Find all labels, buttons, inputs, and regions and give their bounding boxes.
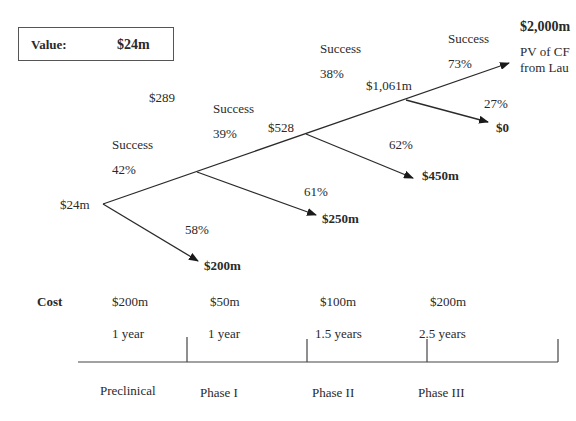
phase-duration-preclinical: 1 year: [112, 327, 144, 340]
final-payoff: $2,000m: [520, 20, 570, 34]
final-note-line1: PV of CF: [520, 45, 570, 58]
phase-name-phase2: Phase II: [312, 386, 354, 399]
stage4-success-pct: 73%: [448, 57, 472, 70]
node2-value: $528: [268, 121, 294, 134]
stage1-success-label: Success: [112, 138, 153, 151]
stage2-fail-payoff: $250m: [322, 212, 359, 225]
stage3-success-label: Success: [320, 42, 361, 55]
final-note-line2: from Lau: [520, 61, 569, 74]
phase-duration-phase1: 1 year: [208, 327, 240, 340]
node1-value: $289: [149, 91, 175, 104]
phase-duration-phase2: 1.5 years: [315, 327, 362, 340]
stage2-success-pct: 39%: [213, 127, 237, 140]
phase-name-phase3: Phase III: [418, 386, 465, 399]
fail-branch-1: [103, 204, 198, 261]
phase-duration-phase3: 2.5 years: [419, 327, 466, 340]
fail-branch-4: [406, 100, 488, 122]
stage3-fail-payoff: $450m: [422, 169, 459, 182]
node3-value: $1,061m: [366, 79, 412, 92]
cost-label: Cost: [37, 295, 62, 308]
stage3-success-pct: 38%: [320, 67, 344, 80]
phase-cost-phase2: $100m: [320, 295, 356, 308]
stage4-fail-payoff: $0: [496, 121, 509, 134]
stage4-fail-pct: 27%: [484, 97, 508, 110]
root-value: $24m: [60, 198, 90, 211]
stage2-fail-pct: 61%: [304, 185, 328, 198]
stage1-fail-pct: 58%: [185, 223, 209, 236]
stage1-success-pct: 42%: [112, 163, 136, 176]
phase-cost-preclinical: $200m: [112, 295, 148, 308]
phase-name-phase1: Phase I: [200, 386, 238, 399]
phase-cost-phase3: $200m: [430, 295, 466, 308]
stage1-fail-payoff: $200m: [204, 259, 241, 272]
stage2-success-label: Success: [213, 102, 254, 115]
stage3-fail-pct: 62%: [389, 138, 413, 151]
fail-branch-2: [197, 172, 316, 215]
phase-name-preclinical: Preclinical: [100, 384, 156, 397]
stage4-success-label: Success: [448, 32, 489, 45]
phase-cost-phase1: $50m: [210, 295, 240, 308]
